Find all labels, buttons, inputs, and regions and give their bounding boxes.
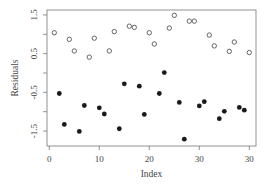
filled-circle-point — [122, 81, 127, 86]
filled-circle-point — [62, 122, 67, 127]
x-tick-label: 0 — [47, 154, 52, 164]
open-circle-point — [52, 31, 56, 35]
filled-circle-point — [137, 84, 142, 89]
x-tick-label: 10 — [95, 154, 105, 164]
filled-circle-point — [57, 91, 62, 96]
open-circle-point — [227, 49, 231, 53]
filled-circle-point — [177, 100, 182, 105]
y-tick-label: -1.5 — [29, 123, 39, 138]
open-circle-point — [192, 19, 196, 23]
y-tick-label: -0.5 — [29, 85, 39, 100]
filled-circle-point — [182, 137, 187, 142]
y-axis: -1.5-0.50.51.5 — [29, 9, 47, 138]
open-circle-point — [247, 50, 251, 54]
filled-circle-point — [237, 105, 242, 110]
open-circle-point — [132, 25, 136, 29]
y-tick-label: 1.5 — [29, 9, 39, 21]
open-circle-point — [172, 13, 176, 17]
filled-circle-point — [162, 70, 167, 75]
x-tick-label: 30 — [195, 154, 205, 164]
filled-circle-point — [77, 129, 82, 134]
filled-circle-point — [202, 99, 207, 104]
open-circle-point — [232, 40, 236, 44]
open-circle-point — [167, 26, 171, 30]
data-points — [52, 13, 251, 141]
open-circle-point — [92, 36, 96, 40]
filled-circle-point — [217, 116, 222, 121]
open-circle-point — [147, 31, 151, 35]
y-axis-title: Residuals — [10, 59, 20, 96]
filled-circle-point — [82, 103, 87, 108]
open-circle-point — [127, 24, 131, 28]
filled-circle-point — [157, 91, 162, 96]
x-axis: 010203030 — [47, 146, 254, 164]
residuals-scatter-plot: 010203030 -1.5-0.50.51.5 Index Residuals — [0, 0, 269, 187]
open-circle-point — [107, 49, 111, 53]
x-tick-label: 20 — [145, 154, 155, 164]
open-circle-point — [187, 19, 191, 23]
open-circle-point — [212, 44, 216, 48]
open-circle-point — [112, 29, 116, 33]
filled-circle-point — [242, 108, 247, 113]
open-circle-point — [207, 33, 211, 37]
filled-circle-point — [197, 103, 202, 108]
open-circle-point — [87, 55, 91, 59]
filled-circle-point — [102, 112, 107, 117]
open-circle-point — [67, 37, 71, 41]
plot-frame — [47, 10, 256, 146]
open-circle-point — [72, 49, 76, 53]
open-circle-point — [152, 42, 156, 46]
x-axis-title: Index — [141, 169, 163, 179]
y-tick-label: 0.5 — [29, 48, 39, 60]
filled-circle-point — [117, 126, 122, 131]
filled-circle-point — [222, 109, 227, 114]
filled-circle-point — [142, 112, 147, 117]
filled-circle-point — [97, 105, 102, 110]
x-tick-label: 30 — [245, 154, 255, 164]
